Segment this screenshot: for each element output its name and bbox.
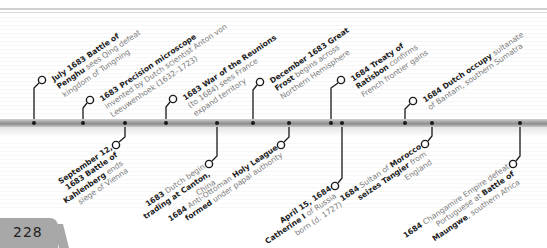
event-circle-icon <box>277 141 284 148</box>
timeline-tick-dot <box>81 121 85 125</box>
timeline-tick-dot <box>329 121 333 125</box>
event-circle-icon <box>337 76 344 83</box>
event-circle-icon <box>112 141 119 148</box>
timeline-tick-dot <box>287 121 291 125</box>
event-circle-icon <box>205 160 212 167</box>
timeline-tick-dot <box>123 121 127 125</box>
page-number: 228 <box>13 224 43 240</box>
event-connector <box>253 78 264 123</box>
timeline-tick-dot <box>215 121 219 125</box>
event-circle-icon <box>256 78 263 85</box>
timeline-tick-dot <box>340 121 344 125</box>
event-circle-icon <box>38 76 45 83</box>
event-circle-icon <box>169 95 176 102</box>
event-connector <box>331 76 345 123</box>
event-connector <box>34 76 46 123</box>
timeline-tick-dot <box>403 121 407 125</box>
timeline-tick-dot <box>518 121 522 125</box>
timeline-bar-shadow <box>0 127 547 137</box>
timeline-tick-dot <box>251 121 255 125</box>
event-circle-icon <box>509 160 516 167</box>
page-number-tab: 228 <box>0 218 58 248</box>
timeline-tick-dot <box>32 121 36 125</box>
event-circle-icon <box>409 97 416 104</box>
event-circle-icon <box>86 96 93 103</box>
timeline-tick-dot <box>164 121 168 125</box>
event-circle-icon <box>421 140 428 147</box>
timeline-tick-dot <box>430 121 434 125</box>
event-circle-icon <box>331 182 338 189</box>
